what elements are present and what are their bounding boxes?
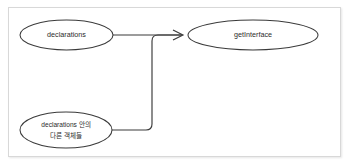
node-other-objects-label-line1: declarations 안의: [41, 120, 90, 129]
node-other-objects[interactable]: declarations 안의 다른 객체들: [20, 112, 112, 148]
edges-layer: [112, 30, 183, 130]
diagram-canvas: declarations declarations 안의 다른 객체들 getI…: [0, 0, 349, 168]
node-declarations[interactable]: declarations: [20, 20, 113, 50]
edge-other-objects-to-getinterface: [112, 35, 182, 130]
node-other-objects-label-line2: 다른 객체들: [50, 131, 82, 140]
node-other-objects-shape[interactable]: [20, 112, 112, 148]
node-getinterface-label: getInterface: [234, 30, 272, 39]
node-getinterface[interactable]: getInterface: [188, 20, 318, 50]
nodes-layer: declarations declarations 안의 다른 객체들 getI…: [20, 20, 318, 148]
node-declarations-label: declarations: [47, 30, 86, 39]
